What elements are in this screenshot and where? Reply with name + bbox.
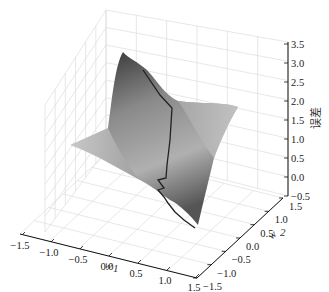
z-tick-label: 3.0	[291, 58, 304, 69]
x-tick	[109, 253, 112, 256]
y-tick-label: 0.0	[246, 241, 259, 252]
y-tick-label: 1.5	[289, 201, 302, 212]
x-tick-label: 1.5	[187, 282, 200, 292]
z-tick-label: 3.5	[291, 39, 304, 50]
y-tick-label: 1.0	[275, 214, 288, 225]
y-tick-label: −1.5	[203, 281, 222, 292]
x-tick-label: −1.0	[39, 247, 58, 258]
x-tick-label: 1.0	[158, 275, 171, 286]
y-tick-label: −0.5	[232, 254, 251, 265]
z-tick-label: 1.0	[291, 134, 304, 145]
y-axis-label-sub: 2	[280, 226, 286, 238]
y-tick-label: −1.0	[217, 268, 236, 279]
x-tick-label: −0.5	[68, 254, 87, 265]
y-ticks: −1.5−1.0−0.50.00.51.01.5	[193, 198, 302, 292]
x-tick-label: 0.5	[129, 268, 142, 279]
z-tick-label: 0.5	[291, 153, 304, 164]
z-axis-label: 误差	[309, 107, 323, 129]
x-tick	[138, 260, 141, 263]
z-tick-label: 0.0	[291, 172, 304, 183]
z-tick-label: −0.5	[291, 191, 310, 202]
z-tick-label: 2.0	[291, 96, 304, 107]
floor-grid-line	[63, 194, 240, 238]
z-tick-label: 1.5	[291, 115, 304, 126]
z-tick-label: 2.5	[291, 77, 304, 88]
surface-plot: −1.5−1.0−0.50.00.51.01.5 −1.5−1.0−0.50.0…	[0, 0, 329, 292]
x-axis-label-sub: 1	[113, 262, 119, 274]
x-tick-label: −1.5	[10, 240, 29, 251]
